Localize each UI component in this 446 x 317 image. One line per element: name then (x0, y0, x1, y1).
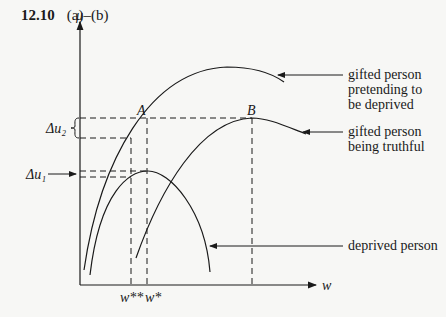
tick-w-star: w* (145, 290, 161, 305)
legend-pretending: gifted person pretending to be deprived (348, 67, 422, 112)
legend-truthful: gifted person being truthful (348, 124, 425, 154)
legend-deprived: deprived person (348, 238, 438, 253)
curve-pretending (84, 67, 284, 270)
tick-w-double-star: w** (120, 290, 143, 305)
delta-u1-label: Δu₁ (26, 167, 46, 182)
point-a-label: A (137, 103, 146, 118)
diagram-canvas (0, 0, 446, 317)
x-axis-label: w (322, 278, 331, 293)
delta-u2-label: Δu₂ (46, 121, 66, 136)
brace-du2 (71, 118, 79, 138)
curve-truthful (136, 118, 306, 258)
y-axis-label: μ (76, 8, 83, 23)
point-b-label: B (247, 103, 256, 118)
